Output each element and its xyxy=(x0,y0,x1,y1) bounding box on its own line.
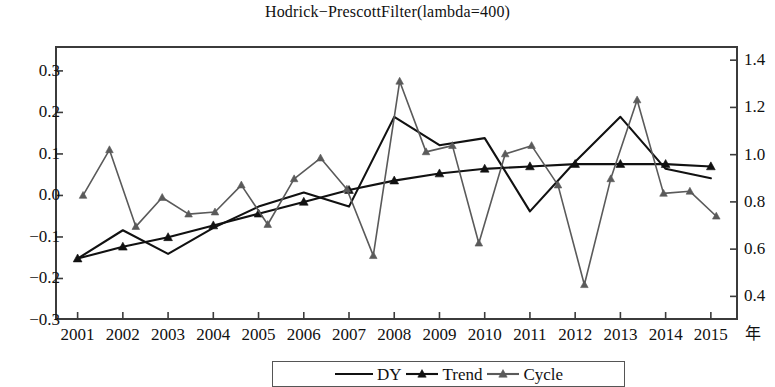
legend-item-cycle[interactable]: Cycle xyxy=(484,366,565,383)
y-axis-left-tick-label: 0.0 xyxy=(14,186,60,203)
y-axis-right-tick-label: 1.4 xyxy=(744,51,775,68)
legend-line-icon xyxy=(334,367,374,381)
y-axis-right-tick-label: 0.8 xyxy=(744,193,775,210)
series-trend xyxy=(73,160,715,262)
y-axis-right-tick-label: 1.2 xyxy=(744,98,775,115)
right-axis-ticks xyxy=(730,60,738,296)
y-axis-left-tick-label: 0.2 xyxy=(14,103,60,120)
chart-title: Hodrick−PrescottFilter(lambda=400) xyxy=(0,3,775,21)
series-dy xyxy=(78,117,711,259)
legend-item-dy[interactable]: DY xyxy=(332,366,404,383)
x-axis-tick-label: 2015 xyxy=(682,326,740,343)
y-axis-left-tick-label: −0.1 xyxy=(14,228,60,245)
legend-label: Cycle xyxy=(523,366,563,383)
series-cycle xyxy=(79,77,720,287)
legend-triangle-marker-icon xyxy=(486,367,520,381)
x-axis-unit-label: 年 xyxy=(745,326,761,342)
legend-label: DY xyxy=(377,366,402,383)
y-axis-right-tick-label: 0.6 xyxy=(744,240,775,257)
x-axis-ticks xyxy=(78,312,711,320)
y-axis-left-tick-label: 0.3 xyxy=(14,62,60,79)
y-axis-left-tick-label: 0.1 xyxy=(14,145,60,162)
legend-item-trend[interactable]: Trend xyxy=(403,366,484,383)
y-axis-right-tick-label: 1.0 xyxy=(744,146,775,163)
y-axis-right-tick-label: 0.4 xyxy=(744,287,775,304)
plot-svg xyxy=(55,46,738,320)
legend-label: Trend xyxy=(442,366,482,383)
legend-triangle-marker-icon xyxy=(405,367,439,381)
y-axis-left-tick-label: −0.2 xyxy=(14,269,60,286)
chart-legend: DYTrendCycle xyxy=(272,361,625,387)
